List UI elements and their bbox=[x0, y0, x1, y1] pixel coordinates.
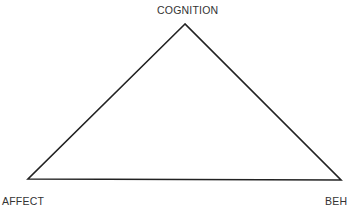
vertex-label-affect: AFFECT bbox=[2, 196, 44, 207]
vertex-label-cognition: COGNITION bbox=[157, 5, 218, 16]
vertex-label-behavior: BEH bbox=[325, 196, 347, 207]
triangle-outline bbox=[28, 24, 341, 180]
